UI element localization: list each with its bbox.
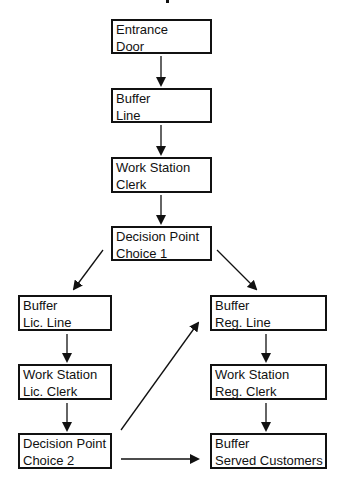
node-buffer-lic-line: Buffer Lic. Line — [18, 295, 112, 331]
node-label-line2: Choice 2 — [23, 453, 107, 470]
node-buffer-reg-line: Buffer Reg. Line — [210, 295, 327, 331]
node-buffer-served-customers: Buffer Served Customers — [210, 433, 327, 469]
node-work-station-clerk: Work Station Clerk — [111, 157, 212, 193]
node-label-line2: Line — [116, 108, 207, 125]
node-label-line2: Clerk — [116, 177, 207, 194]
node-label-line2: Lic. Line — [23, 315, 107, 332]
edge-choice1-to-reg-line — [217, 250, 256, 289]
node-label-line2: Reg. Clerk — [215, 384, 322, 401]
node-label-line1: Entrance — [116, 22, 207, 39]
node-label-line1: Buffer — [215, 436, 322, 453]
node-label-line2: Served Customers — [215, 453, 322, 470]
node-work-station-lic-clerk: Work Station Lic. Clerk — [18, 364, 112, 400]
node-label-line1: Buffer — [23, 298, 107, 315]
edge-choice1-to-lic-line — [74, 250, 103, 289]
node-label-line2: Choice 1 — [116, 246, 207, 263]
node-buffer-line: Buffer Line — [111, 88, 212, 123]
node-entrance-door: Entrance Door — [111, 19, 212, 54]
node-work-station-reg-clerk: Work Station Reg. Clerk — [210, 364, 327, 400]
node-label-line2: Reg. Line — [215, 315, 322, 332]
node-label-line1: Buffer — [215, 298, 322, 315]
node-decision-point-choice-1: Decision Point Choice 1 — [111, 226, 212, 261]
node-label-line1: Decision Point — [116, 229, 207, 246]
node-label-line1: Buffer — [116, 91, 207, 108]
edge-choice2-to-reg-line — [121, 323, 198, 430]
node-label-line2: Lic. Clerk — [23, 384, 107, 401]
node-label-line1: Work Station — [116, 160, 207, 177]
node-label-line1: Work Station — [215, 367, 322, 384]
node-label-line1: Decision Point — [23, 436, 107, 453]
node-label-line1: Work Station — [23, 367, 107, 384]
node-decision-point-choice-2: Decision Point Choice 2 — [18, 433, 112, 469]
node-label-line2: Door — [116, 39, 207, 56]
